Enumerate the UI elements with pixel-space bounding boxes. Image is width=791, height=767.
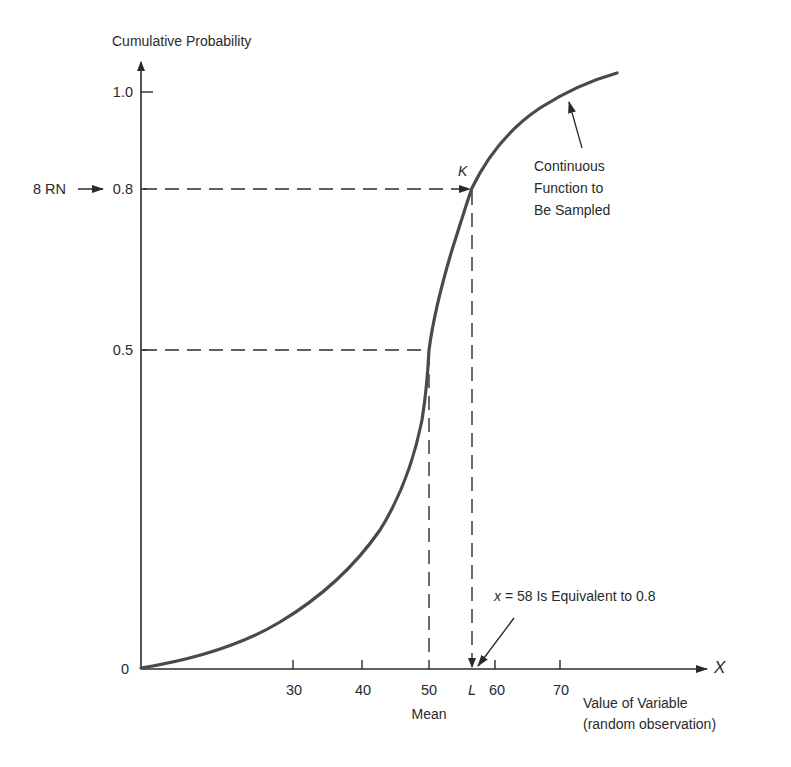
x-tick-label-60: 60 — [489, 682, 505, 698]
rn-label: 8 RN — [33, 181, 66, 197]
y-tick-label-0-5: 0.5 — [113, 342, 133, 358]
chart-canvas — [0, 0, 791, 767]
x-tick-label-30: 30 — [286, 682, 302, 698]
x-axis-symbol: X — [714, 660, 725, 676]
x-tick-label-70: 70 — [553, 682, 569, 698]
cdf-chart: Cumulative Probability 1.0 8 RN 0.8 0.5 … — [0, 0, 791, 767]
y-tick-label-1-0: 1.0 — [113, 84, 133, 100]
equiv-note-arrow — [478, 618, 514, 666]
equiv-note: x = 58 Is Equivalent to 0.8 — [494, 588, 656, 604]
equiv-note-variable: x — [494, 588, 501, 604]
x-axis-title-line1: Value of Variable — [583, 695, 688, 711]
y-tick-label-0-8: 0.8 — [113, 181, 133, 197]
y-axis-title: Cumulative Probability — [112, 33, 251, 49]
x-axis-title-line2: (random observation) — [583, 716, 716, 732]
x-tick-label-40: 40 — [355, 682, 371, 698]
curve-note-arrow — [569, 102, 582, 148]
point-l-label: L — [468, 682, 476, 698]
y-tick-label-0: 0 — [121, 661, 129, 677]
equiv-note-text: = 58 Is Equivalent to 0.8 — [501, 588, 656, 604]
curve-note-line1: Continuous — [534, 158, 605, 174]
curve-note-line3: Be Sampled — [534, 202, 610, 218]
mean-label: Mean — [411, 706, 446, 722]
point-k-label: K — [458, 163, 467, 179]
x-tick-label-50: 50 — [421, 682, 437, 698]
curve-note-line2: Function to — [534, 180, 603, 196]
